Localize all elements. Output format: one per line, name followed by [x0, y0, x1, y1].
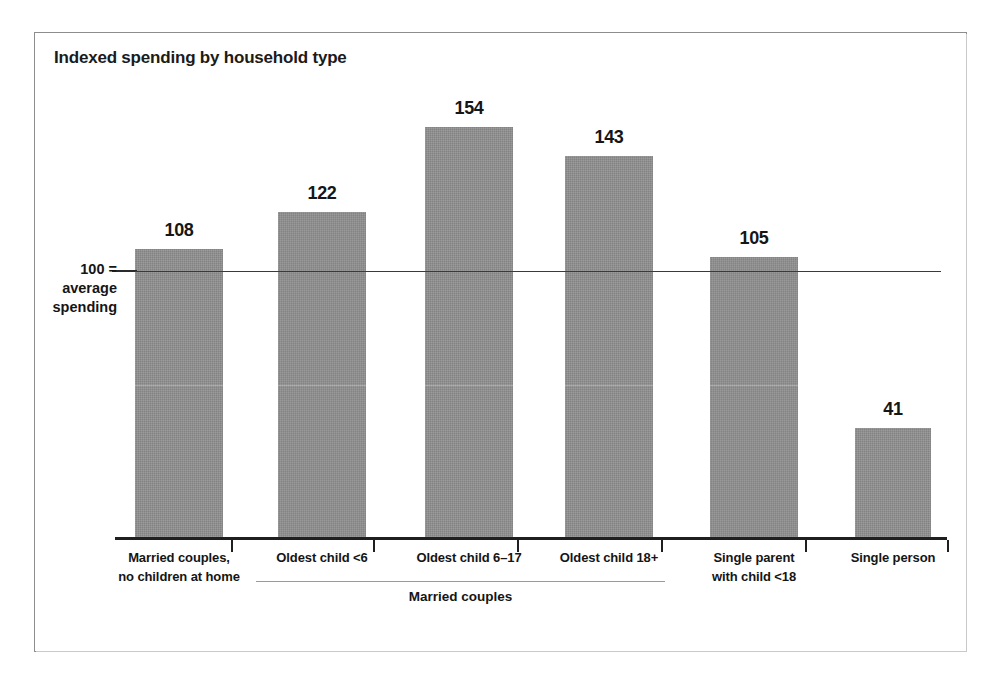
y-axis-reference-caption: 100 =averagespending [0, 260, 117, 317]
y-axis-caption-line: spending [0, 298, 117, 317]
chart-title: Indexed spending by household type [54, 48, 347, 68]
y-axis-caption-line: 100 = [0, 260, 117, 279]
y-axis-caption-line: average [0, 279, 117, 298]
figure-frame [34, 32, 967, 652]
